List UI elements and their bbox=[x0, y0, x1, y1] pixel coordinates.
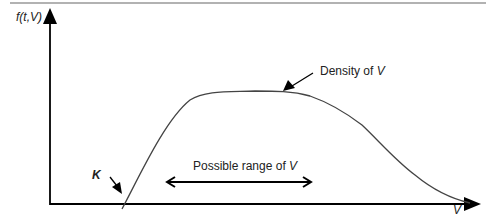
k-pointer-arrowhead-icon bbox=[112, 182, 122, 194]
range-label-var: V bbox=[289, 159, 297, 173]
x-axis-label: V bbox=[453, 203, 461, 217]
density-diagram bbox=[0, 0, 496, 221]
x-axis-arrow-icon bbox=[464, 197, 481, 211]
y-axis-label: f(t,V) bbox=[16, 10, 42, 24]
range-label-text: Possible range of bbox=[193, 159, 289, 173]
y-axis-arrow-icon bbox=[43, 8, 57, 24]
density-label-text: Density of bbox=[320, 64, 377, 78]
density-label-var: V bbox=[377, 64, 385, 78]
density-curve bbox=[122, 91, 470, 209]
density-label: Density of V bbox=[320, 64, 385, 78]
range-label: Possible range of V bbox=[193, 159, 297, 173]
threshold-label-k: K bbox=[92, 168, 101, 182]
density-pointer-arrow bbox=[292, 73, 313, 86]
